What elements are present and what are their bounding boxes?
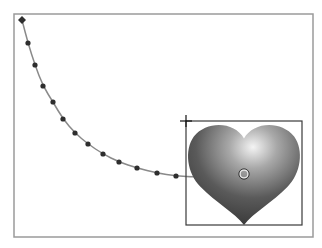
keyframe-dot[interactable] <box>85 141 90 146</box>
keyframe-dot[interactable] <box>100 151 105 156</box>
stage-canvas[interactable] <box>0 0 322 248</box>
keyframe-dot[interactable] <box>25 40 30 45</box>
keyframe-dot[interactable] <box>32 62 37 67</box>
keyframe-dot[interactable] <box>134 165 139 170</box>
keyframe-dot[interactable] <box>40 83 45 88</box>
keyframe-dot[interactable] <box>116 159 121 164</box>
keyframe-dot[interactable] <box>173 173 178 178</box>
path-start-diamond-icon[interactable] <box>18 16 26 24</box>
keyframe-dot[interactable] <box>154 170 159 175</box>
keyframe-dot[interactable] <box>60 116 65 121</box>
registration-crosshair-icon <box>180 115 192 127</box>
keyframe-dot[interactable] <box>50 99 55 104</box>
keyframe-dot[interactable] <box>72 130 77 135</box>
heart-shape[interactable] <box>188 125 300 225</box>
